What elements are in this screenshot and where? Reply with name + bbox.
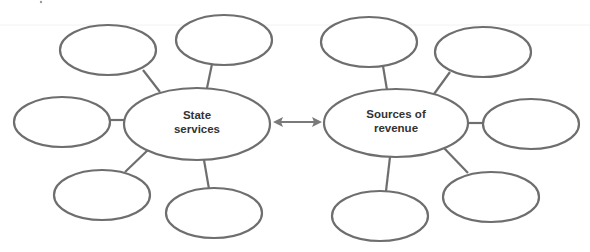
- empty-bubble: [60, 25, 156, 75]
- empty-bubble: [54, 170, 150, 220]
- empty-bubble: [321, 17, 417, 67]
- empty-bubble: [332, 191, 428, 241]
- spoke: [204, 160, 209, 189]
- empty-bubble: [166, 188, 262, 238]
- double-bubble-diagram: State services Sources of revenue: [0, 0, 590, 252]
- hub-label-line2: revenue: [374, 122, 418, 134]
- hub-label-line1: State: [183, 109, 211, 121]
- hub-label-line1: Sources of: [366, 108, 426, 120]
- bidirectional-arrow-icon: [273, 117, 322, 127]
- empty-bubble: [483, 99, 579, 149]
- spoke: [143, 70, 160, 92]
- empty-bubble: [14, 97, 110, 147]
- hub-label-line2: services: [174, 123, 220, 135]
- scan-artifact-dot: [40, 1, 42, 3]
- spoke: [383, 66, 387, 90]
- spoke: [386, 157, 390, 191]
- spoke: [125, 148, 150, 172]
- spoke: [207, 64, 212, 88]
- spoke: [444, 148, 468, 173]
- spoke: [434, 72, 450, 94]
- empty-bubble: [176, 15, 272, 65]
- empty-bubble: [443, 172, 539, 222]
- empty-bubble: [435, 27, 531, 77]
